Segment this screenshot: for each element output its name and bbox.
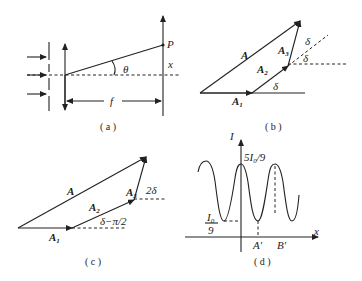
label-delta-1: δ	[273, 80, 279, 92]
label-x-axis: x	[313, 225, 319, 237]
label-theta: θ	[123, 63, 129, 75]
label-y-axis: I	[229, 130, 235, 142]
label-a2: A2	[88, 201, 100, 215]
intensity-curve	[198, 161, 299, 221]
label-max-intensity: 5I0/9	[244, 151, 266, 165]
panel-d: I 5I0/9 I0 9 x A′ B′ ( d )	[185, 130, 319, 268]
label-a1: A1	[48, 231, 60, 245]
label-a-prime: A′	[252, 239, 263, 251]
figure-canvas: P θ x f ( a ) A A1 A2 A3 δ δ δ ( b ) A	[0, 0, 362, 281]
label-min-denominator: 9	[208, 224, 214, 236]
panel-b: A A1 A2 A3 δ δ δ ( b )	[200, 21, 346, 133]
label-b-prime: B′	[277, 239, 287, 251]
theta-arc	[112, 61, 115, 75]
label-resultant-a: A	[240, 49, 248, 61]
panel-c: A A1 A2 A3 δ−π/2 2δ ( c )	[18, 157, 165, 268]
label-delta-minus-pi-over-2: δ−π/2	[100, 215, 127, 227]
label-f: f	[110, 95, 115, 107]
caption-a: ( a )	[100, 121, 116, 133]
label-2delta: 2δ	[146, 184, 158, 196]
point-p-dot	[161, 43, 164, 46]
label-x: x	[167, 58, 173, 70]
caption-c: ( c )	[85, 256, 101, 268]
label-delta-3: δ	[305, 35, 311, 47]
label-a1: A1	[231, 95, 243, 109]
caption-b: ( b )	[265, 121, 282, 133]
label-a2: A2	[256, 63, 268, 77]
ray-to-p	[65, 45, 163, 75]
label-delta-2: δ	[303, 52, 309, 64]
label-a3: A3	[277, 44, 289, 58]
caption-d: ( d )	[254, 256, 271, 268]
label-resultant-a: A	[66, 185, 74, 197]
label-a3: A3	[125, 186, 137, 200]
label-p: P	[166, 38, 174, 50]
panel-a: P θ x f ( a )	[27, 16, 181, 133]
